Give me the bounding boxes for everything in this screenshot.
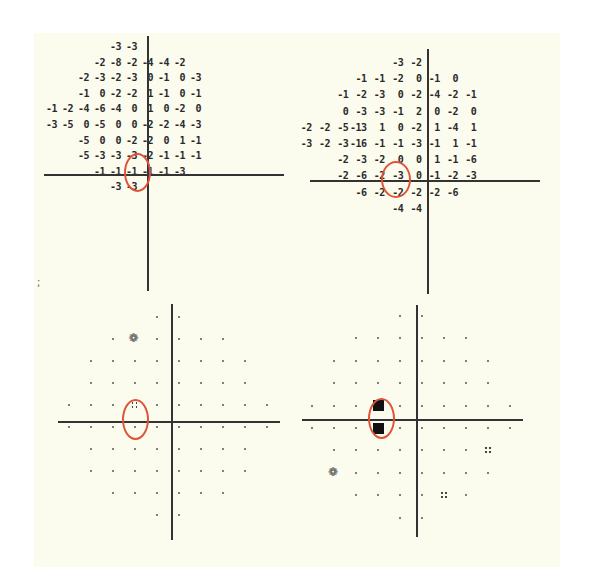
normal-point-icon bbox=[443, 405, 445, 407]
normal-point-icon bbox=[266, 404, 268, 406]
normal-point-icon bbox=[112, 448, 114, 450]
vertical-axis bbox=[416, 305, 418, 537]
normal-point-icon bbox=[178, 338, 180, 340]
normal-point-icon bbox=[487, 405, 489, 407]
normal-point-icon bbox=[156, 360, 158, 362]
deviation-value: -3 bbox=[179, 72, 201, 84]
p2-symbol-icon: ❁ bbox=[129, 332, 139, 344]
normal-point-icon bbox=[90, 360, 92, 362]
normal-point-icon bbox=[200, 448, 202, 450]
normal-point-icon bbox=[421, 427, 423, 429]
normal-point-icon bbox=[421, 360, 423, 362]
normal-point-icon bbox=[134, 448, 136, 450]
normal-point-icon bbox=[355, 472, 357, 474]
normal-point-icon bbox=[222, 404, 224, 406]
highlight-circle bbox=[122, 399, 149, 440]
normal-point-icon bbox=[244, 404, 246, 406]
horizontal-axis bbox=[302, 419, 523, 421]
normal-point-icon bbox=[399, 405, 401, 407]
deviation-value: 1 bbox=[454, 122, 476, 134]
p5-symbol-icon bbox=[441, 492, 447, 498]
normal-point-icon bbox=[465, 472, 467, 474]
horizontal-axis bbox=[58, 421, 280, 423]
normal-point-icon bbox=[134, 470, 136, 472]
normal-point-icon bbox=[311, 427, 313, 429]
normal-point-icon bbox=[156, 382, 158, 384]
normal-point-icon bbox=[178, 514, 180, 516]
normal-point-icon bbox=[222, 470, 224, 472]
deviation-value: 0 bbox=[179, 103, 201, 115]
normal-point-icon bbox=[399, 472, 401, 474]
normal-point-icon bbox=[421, 405, 423, 407]
normal-point-icon bbox=[90, 448, 92, 450]
normal-point-icon bbox=[487, 427, 489, 429]
normal-point-icon bbox=[156, 338, 158, 340]
deviation-value: -6 bbox=[454, 154, 476, 166]
normal-point-icon bbox=[156, 316, 158, 318]
deviation-value: -6 bbox=[436, 187, 458, 199]
normal-point-icon bbox=[421, 517, 423, 519]
deviation-value: -4 bbox=[400, 203, 422, 215]
normal-point-icon bbox=[222, 492, 224, 494]
normal-point-icon bbox=[112, 492, 114, 494]
deviation-value: -3 bbox=[163, 166, 185, 178]
normal-point-icon bbox=[112, 382, 114, 384]
normal-point-icon bbox=[465, 405, 467, 407]
deviation-value: -1 bbox=[179, 135, 201, 147]
normal-point-icon bbox=[222, 338, 224, 340]
normal-point-icon bbox=[200, 426, 202, 428]
normal-point-icon bbox=[90, 382, 92, 384]
normal-point-icon bbox=[112, 338, 114, 340]
deviation-value: -1 bbox=[454, 89, 476, 101]
horizontal-axis bbox=[44, 174, 284, 176]
normal-point-icon bbox=[178, 470, 180, 472]
normal-point-icon bbox=[90, 404, 92, 406]
deviation-value: -2 bbox=[400, 57, 422, 69]
normal-point-icon bbox=[443, 472, 445, 474]
normal-point-icon bbox=[222, 382, 224, 384]
normal-point-icon bbox=[200, 360, 202, 362]
normal-point-icon bbox=[266, 426, 268, 428]
normal-point-icon bbox=[112, 426, 114, 428]
normal-point-icon bbox=[112, 470, 114, 472]
normal-point-icon bbox=[377, 360, 379, 362]
normal-point-icon bbox=[90, 470, 92, 472]
horizontal-axis bbox=[310, 180, 540, 182]
normal-point-icon bbox=[355, 427, 357, 429]
normal-point-icon bbox=[333, 427, 335, 429]
normal-point-icon bbox=[90, 426, 92, 428]
vertical-axis bbox=[427, 49, 429, 294]
normal-point-icon bbox=[222, 426, 224, 428]
normal-point-icon bbox=[178, 492, 180, 494]
normal-point-icon bbox=[244, 448, 246, 450]
normal-point-icon bbox=[178, 448, 180, 450]
normal-point-icon bbox=[156, 492, 158, 494]
normal-point-icon bbox=[399, 427, 401, 429]
normal-point-icon bbox=[134, 492, 136, 494]
deviation-value: 0 bbox=[436, 73, 458, 85]
normal-point-icon bbox=[200, 492, 202, 494]
p5-symbol-icon bbox=[485, 447, 491, 453]
highlight-circle bbox=[124, 153, 151, 192]
normal-point-icon bbox=[421, 315, 423, 317]
normal-point-icon bbox=[244, 382, 246, 384]
normal-point-icon bbox=[244, 470, 246, 472]
normal-point-icon bbox=[112, 360, 114, 362]
normal-point-icon bbox=[200, 382, 202, 384]
normal-point-icon bbox=[487, 360, 489, 362]
normal-point-icon bbox=[156, 514, 158, 516]
normal-point-icon bbox=[487, 472, 489, 474]
normal-point-icon bbox=[156, 448, 158, 450]
deviation-value: -3 bbox=[179, 119, 201, 131]
highlight-circle bbox=[368, 398, 395, 439]
deviation-value: -2 bbox=[163, 57, 185, 69]
normal-point-icon bbox=[156, 404, 158, 406]
normal-point-icon bbox=[443, 360, 445, 362]
deviation-value: -1 bbox=[454, 138, 476, 150]
normal-point-icon bbox=[156, 470, 158, 472]
normal-point-icon bbox=[68, 404, 70, 406]
normal-point-icon bbox=[443, 427, 445, 429]
normal-point-icon bbox=[465, 360, 467, 362]
normal-point-icon bbox=[178, 382, 180, 384]
normal-point-icon bbox=[222, 360, 224, 362]
